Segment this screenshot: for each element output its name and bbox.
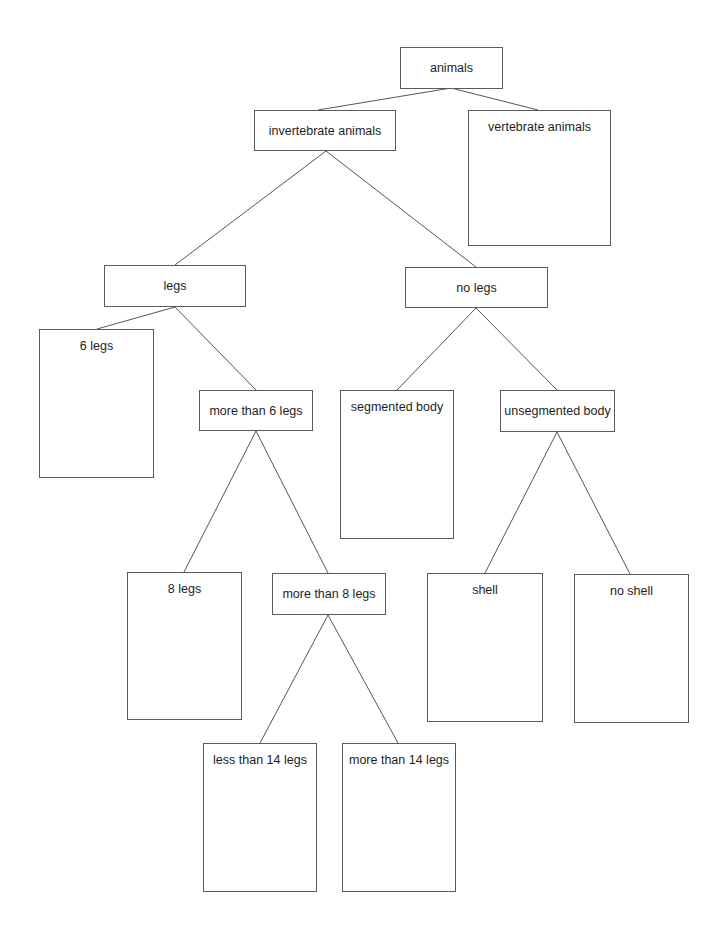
node-label: no shell xyxy=(610,584,653,598)
edge-legs-to-more-than-6 xyxy=(175,307,256,390)
node-no-legs: no legs xyxy=(405,267,548,308)
node-label: more than 6 legs xyxy=(209,404,302,418)
node-legs: legs xyxy=(104,265,246,307)
node-segmented: segmented body xyxy=(340,390,454,539)
edge-invertebrate-to-legs xyxy=(175,151,326,265)
edge-animals-to-invertebrate xyxy=(318,88,451,110)
edge-more-than-8-to-more-than-14 xyxy=(328,615,398,743)
node-label: 6 legs xyxy=(80,339,113,353)
edge-more-than-6-to-eight-legs xyxy=(184,431,256,572)
node-more-than-6: more than 6 legs xyxy=(199,390,313,431)
node-unsegmented: unsegmented body xyxy=(500,390,615,432)
node-label: invertebrate animals xyxy=(269,124,382,138)
node-label: segmented body xyxy=(351,400,443,414)
node-label: no legs xyxy=(456,281,496,295)
node-shell: shell xyxy=(427,573,543,722)
edge-more-than-6-to-more-than-8 xyxy=(256,431,328,573)
node-no-shell: no shell xyxy=(574,574,689,723)
node-label: more than 8 legs xyxy=(282,587,375,601)
node-label: less than 14 legs xyxy=(213,753,307,767)
node-six-legs: 6 legs xyxy=(39,329,154,478)
node-invertebrate: invertebrate animals xyxy=(254,110,396,151)
node-label: shell xyxy=(472,583,498,597)
edge-no-legs-to-unsegmented xyxy=(476,308,557,390)
edge-animals-to-vertebrate xyxy=(451,88,538,110)
node-less-than-14: less than 14 legs xyxy=(203,743,317,892)
node-animals: animals xyxy=(400,47,503,89)
node-label: animals xyxy=(430,61,473,75)
edge-unsegmented-to-shell xyxy=(485,432,557,573)
node-label: more than 14 legs xyxy=(349,753,449,767)
node-label: vertebrate animals xyxy=(488,120,591,134)
node-label: legs xyxy=(164,279,187,293)
node-more-than-14: more than 14 legs xyxy=(342,743,456,892)
edge-legs-to-six-legs xyxy=(97,307,175,329)
node-vertebrate: vertebrate animals xyxy=(468,110,611,246)
edge-unsegmented-to-no-shell xyxy=(557,432,630,574)
node-label: unsegmented body xyxy=(504,404,610,418)
node-label: 8 legs xyxy=(168,582,201,596)
edge-no-legs-to-segmented xyxy=(397,308,476,390)
edge-invertebrate-to-no-legs xyxy=(326,151,476,267)
node-more-than-8: more than 8 legs xyxy=(272,573,386,615)
edge-more-than-8-to-less-than-14 xyxy=(260,615,328,743)
node-eight-legs: 8 legs xyxy=(127,572,242,720)
